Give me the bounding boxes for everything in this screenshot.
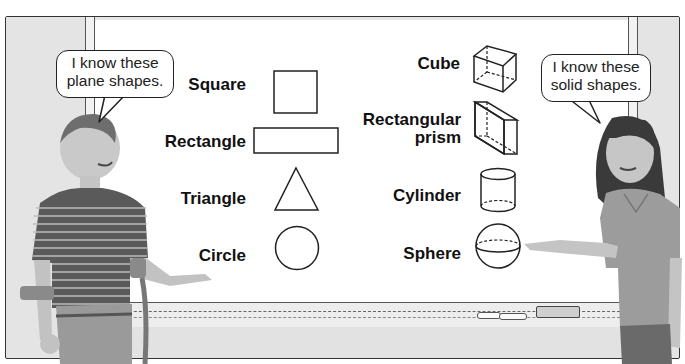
bubble-right-line1: I know these — [548, 58, 644, 76]
circle-icon — [273, 224, 321, 272]
label-square: Square — [170, 76, 246, 94]
cube-icon — [472, 44, 518, 94]
label-cylinder: Cylinder — [380, 187, 461, 205]
label-sphere: Sphere — [390, 245, 461, 263]
cylinder-icon — [478, 166, 518, 216]
label-cube: Cube — [390, 55, 460, 73]
triangle-icon — [273, 166, 321, 212]
chalk-piece — [477, 312, 501, 319]
classroom-scene: Square Rectangle Triangle Circle Cube Re… — [0, 0, 685, 364]
bubble-right-line2: solid shapes. — [548, 76, 644, 94]
bubble-left-line2: plane shapes. — [63, 72, 167, 90]
bubble-left-line1: I know these — [63, 54, 167, 72]
bubble-tail-left — [95, 94, 135, 126]
sphere-icon — [474, 222, 522, 270]
rectangular-prism-icon — [473, 100, 519, 156]
speech-bubble-left: I know these plane shapes. — [56, 50, 174, 98]
rectangle-icon — [253, 127, 339, 155]
square-icon — [273, 70, 319, 114]
speech-bubble-right: I know these solid shapes. — [541, 54, 651, 102]
girl-presenter — [520, 108, 680, 364]
label-rectangular-prism-line1: Rectangular — [350, 111, 461, 129]
label-rectangular-prism-line2: prism — [350, 129, 461, 147]
boy-presenter — [20, 108, 220, 364]
